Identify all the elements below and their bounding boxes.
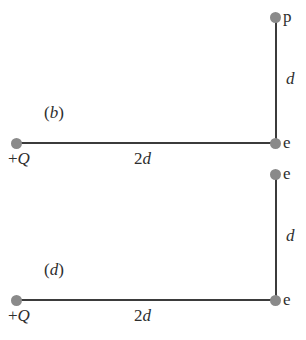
physics-diagram-figure: p e +Q d 2d (b) e e (0, 0, 306, 340)
charge-sign-text: + (8, 306, 18, 325)
panel-caption: (b) (44, 104, 64, 121)
node-corner-dot (270, 138, 281, 149)
node-corner-dot (270, 295, 281, 306)
node-top-label: p (283, 8, 292, 25)
charge-symbol-text: Q (18, 306, 30, 325)
horizontal-segment (16, 142, 276, 144)
node-charge-dot (11, 295, 22, 306)
diagram-panel-d: e e +Q d 2d (d) (0, 157, 306, 327)
vertical-segment (275, 17, 277, 143)
node-top-dot (270, 12, 281, 23)
panel-caption-close-paren: ) (58, 260, 64, 279)
panel-caption-letter: d (50, 260, 59, 279)
panel-caption-close-paren: ) (58, 103, 64, 122)
vertical-dimension-label: d (286, 227, 295, 244)
node-charge-dot (11, 138, 22, 149)
vertical-segment (275, 174, 277, 300)
node-corner-label: e (283, 134, 291, 151)
horizontal-dimension-symbol: d (143, 306, 152, 325)
node-top-dot (270, 169, 281, 180)
node-top-label: e (283, 165, 291, 182)
vertical-dimension-label: d (286, 70, 295, 87)
panel-caption: (d) (44, 261, 64, 278)
node-charge-label: +Q (8, 307, 30, 324)
diagram-panel-b: p e +Q d 2d (b) (0, 0, 306, 170)
horizontal-dimension-label: 2d (134, 307, 151, 324)
node-corner-label: e (283, 291, 291, 308)
panel-caption-letter: b (50, 103, 59, 122)
horizontal-dimension-number: 2 (134, 306, 143, 325)
horizontal-segment (16, 299, 276, 301)
